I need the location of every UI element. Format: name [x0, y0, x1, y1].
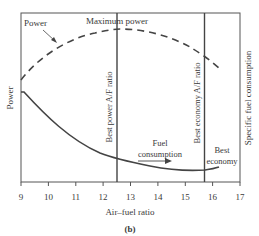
x-tick-label: 12	[99, 192, 108, 202]
x-tick-label: 9	[19, 192, 24, 202]
power-annotation: Power	[24, 18, 47, 28]
fuel-label-line2: consumption	[138, 149, 183, 159]
best-economy-label: Best economy A/F ratio	[192, 63, 202, 144]
y-axis-right-title: Specific fuel consumption	[243, 50, 253, 145]
fuel-label-line1: Fuel	[152, 138, 168, 148]
best-power-label: Best power A/F ratio	[104, 71, 114, 142]
x-tick-label: 16	[208, 192, 218, 202]
y-axis-left-title: Power	[5, 87, 15, 110]
x-tick-label: 15	[181, 192, 191, 202]
best-economy-text-line2: economy	[206, 156, 238, 166]
best-economy-text-line1: Best	[214, 145, 230, 155]
x-tick-label: 13	[126, 192, 136, 202]
x-axis-title: Air–fuel ratio	[105, 207, 155, 217]
fuel-consumption-curve	[21, 92, 219, 170]
panel-label: (b)	[125, 224, 136, 234]
x-tick-label: 10	[44, 192, 54, 202]
x-axis-ticks	[21, 182, 240, 186]
max-power-label: Maximum power	[86, 16, 148, 26]
chart: 9 10 11 12 13 14 15 16 17 Air–fuel ratio…	[0, 0, 259, 236]
x-tick-label: 17	[236, 192, 246, 202]
x-tick-label: 11	[71, 192, 80, 202]
x-tick-label: 14	[153, 192, 163, 202]
x-tick-labels: 9 10 11 12 13 14 15 16 17	[19, 192, 245, 202]
